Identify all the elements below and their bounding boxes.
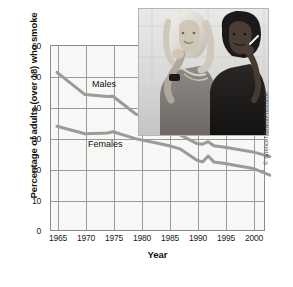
photo-credit: © Spencer Grant/PhotoEdit xyxy=(263,55,269,165)
two-women-smoking-photo xyxy=(138,8,269,136)
series-label-males: Males xyxy=(92,79,116,89)
x-axis-title: Year xyxy=(50,249,265,260)
series-label-females: Females xyxy=(88,139,123,149)
chart-figure: Percentage of adults (over 18) who smoke… xyxy=(0,0,293,287)
